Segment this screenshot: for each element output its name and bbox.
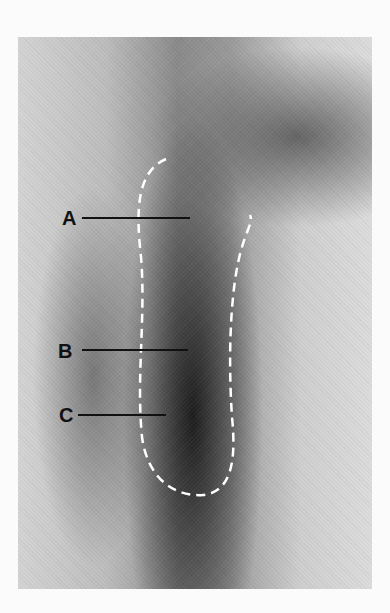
clipped-caption-text [0, 0, 390, 4]
label-b: B [58, 341, 72, 361]
label-a: A [62, 208, 76, 228]
dashed-outline [139, 159, 251, 495]
label-c: C [59, 405, 73, 425]
figure-annotations [18, 37, 372, 589]
